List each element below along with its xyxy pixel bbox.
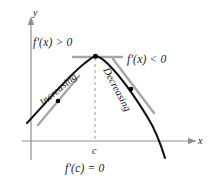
x-axis-label: x [198, 136, 203, 146]
fprime-negative-label: f′(x) < 0 [127, 54, 167, 66]
left-tangent-point [56, 99, 61, 104]
function-curve [27, 56, 165, 158]
derivative-test-figure: y x f′(x) > 0 f′(x) < 0 c f′(c) = 0 Incr… [0, 0, 211, 187]
figure-canvas [0, 0, 211, 187]
vertex-point [93, 54, 98, 59]
critical-number-label: c [92, 146, 97, 156]
fprime-positive-label: f′(x) > 0 [33, 37, 73, 49]
x-axis [22, 138, 196, 144]
right-tangent-point [129, 87, 134, 92]
fprime-c-zero-label: f′(c) = 0 [65, 163, 105, 175]
y-axis-label: y [33, 8, 38, 18]
